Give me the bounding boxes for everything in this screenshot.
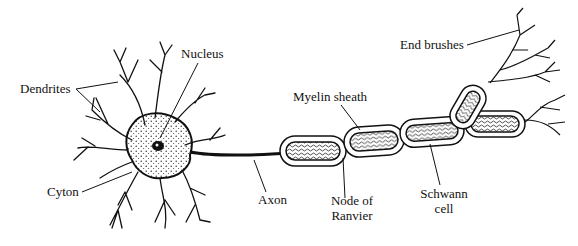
label-node-of-ranvier: Node of Ranvier [328,193,376,223]
label-end-brushes: End brushes [400,37,464,52]
label-schwann-cell-line2: cell [416,201,472,216]
label-axon: Axon [258,192,287,207]
neuron-diagram: Nucleus Dendrites Cyton Axon Myelin shea… [0,0,578,246]
label-myelin-sheath: Myelin sheath [293,89,367,104]
label-schwann-cell: Schwann cell [416,186,472,216]
label-nucleus: Nucleus [181,46,224,61]
label-node-of-ranvier-line1: Node of [328,193,376,208]
label-node-of-ranvier-line2: Ranvier [328,208,376,223]
label-dendrites: Dendrites [20,81,71,96]
neuron-illustration [0,0,578,246]
label-cyton: Cyton [47,184,79,199]
label-schwann-cell-line1: Schwann [416,186,472,201]
axon-fiber [190,152,290,155]
